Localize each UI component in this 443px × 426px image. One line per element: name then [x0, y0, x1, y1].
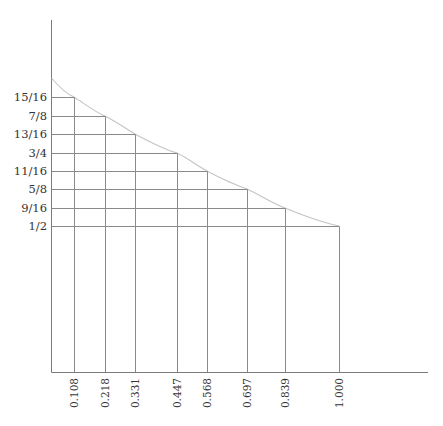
x-label: 1.000 — [333, 378, 345, 408]
y-label: 3/4 — [28, 146, 47, 160]
y-label: 13/16 — [14, 127, 47, 141]
y-label: 1/2 — [28, 219, 47, 233]
y-label: 7/8 — [28, 109, 47, 123]
x-label: 0.108 — [68, 378, 80, 408]
y-label: 11/16 — [14, 164, 47, 178]
y-label: 9/16 — [21, 201, 47, 215]
y-label: 15/16 — [14, 90, 47, 104]
x-label: 0.331 — [129, 378, 141, 408]
x-label: 0.568 — [201, 378, 213, 408]
horizontal-lines — [52, 98, 340, 227]
x-label: 0.839 — [279, 378, 291, 408]
y-axis-labels: 15/16 7/8 13/16 3/4 11/16 5/8 9/16 1/2 — [14, 90, 47, 233]
x-axis-labels: 0.108 0.218 0.331 0.447 0.568 0.697 0.83… — [68, 378, 345, 408]
y-label: 5/8 — [28, 182, 47, 196]
staircase-diagram: 15/16 7/8 13/16 3/4 11/16 5/8 9/16 1/2 0… — [0, 0, 443, 426]
vertical-lines — [75, 98, 340, 373]
x-label: 0.218 — [99, 378, 111, 408]
x-label: 0.697 — [241, 378, 253, 408]
x-label: 0.447 — [171, 378, 183, 408]
decreasing-curve — [52, 78, 340, 226]
